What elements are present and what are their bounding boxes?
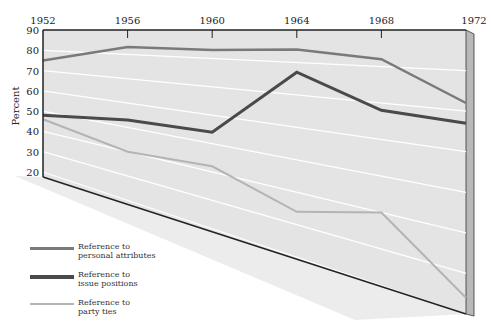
panel-side <box>466 30 474 316</box>
legend-item: Reference topersonal attributes <box>30 242 188 270</box>
legend-swatch <box>30 303 74 305</box>
x-tick-label: 1956 <box>115 15 140 26</box>
legend-swatch <box>30 275 74 279</box>
legend-label-line: party ties <box>78 307 188 316</box>
legend-label: Reference topersonal attributes <box>78 242 188 260</box>
y-axis-ticks: 9080706050403020 <box>26 25 39 178</box>
legend-swatch <box>30 247 74 250</box>
y-tick-label: 60 <box>26 86 39 97</box>
x-tick-label: 1960 <box>199 15 224 26</box>
legend-item: Reference toparty ties <box>30 298 188 326</box>
legend-item: Reference toissue positions <box>30 270 188 298</box>
legend-label: Reference toparty ties <box>78 298 188 316</box>
y-tick-label: 70 <box>26 66 39 77</box>
y-tick-label: 30 <box>26 147 39 158</box>
y-tick-label: 90 <box>26 25 39 36</box>
y-tick-label: 40 <box>26 126 39 137</box>
legend-label-line: personal attributes <box>78 251 188 260</box>
y-tick-label: 20 <box>26 167 39 178</box>
legend-label: Reference toissue positions <box>78 270 188 288</box>
legend-label-line: Reference to <box>78 298 188 307</box>
legend-label-line: Reference to <box>78 270 188 279</box>
y-tick-label: 80 <box>26 45 39 56</box>
x-tick-label: 1964 <box>284 15 309 26</box>
legend: Reference topersonal attributesReference… <box>30 242 188 326</box>
y-tick-label: 50 <box>26 106 39 117</box>
legend-label-line: Reference to <box>78 242 188 251</box>
legend-label-line: issue positions <box>78 279 188 288</box>
y-axis-title: Percent <box>10 87 21 126</box>
x-tick-label: 1968 <box>369 15 394 26</box>
x-tick-label: 1972 <box>461 15 486 26</box>
